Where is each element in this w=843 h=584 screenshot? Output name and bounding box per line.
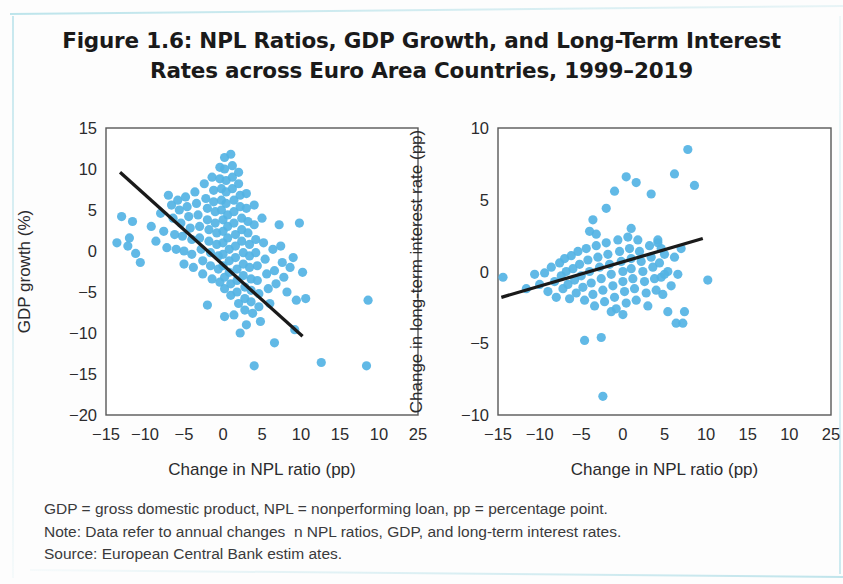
scatter-point	[593, 253, 602, 262]
y-axis-tick-label: −5	[470, 334, 489, 352]
scatter-point	[282, 287, 291, 296]
scatter-point	[590, 301, 599, 310]
scatter-point	[184, 212, 193, 221]
scatter-point	[226, 150, 235, 159]
scatter-point	[220, 312, 229, 321]
scatter-point	[125, 233, 134, 242]
note-data: Note: Data refer to annual changes n NPL…	[44, 521, 824, 544]
scatter-point	[192, 199, 201, 208]
scatter-point	[278, 258, 287, 267]
x-axis-title: Change in NPL ratio (pp)	[168, 460, 355, 479]
scatter-point	[543, 287, 552, 296]
scatter-point	[250, 220, 259, 229]
scatter-point	[632, 178, 641, 187]
x-axis-tick-label: 5	[660, 425, 669, 443]
scatter-point	[256, 317, 265, 326]
y-axis-title: Change in long-term interest rate (pp)	[407, 130, 426, 413]
y-axis-tick-label: 15	[79, 119, 97, 137]
scatter-point	[162, 243, 171, 252]
scatter-point	[136, 258, 145, 267]
scatter-point	[643, 301, 652, 310]
scatter-point	[627, 264, 636, 273]
scatter-point	[279, 273, 288, 282]
scatter-point	[363, 296, 372, 305]
scatter-point	[578, 283, 587, 292]
scatter-point	[588, 215, 597, 224]
scatter-point	[642, 288, 651, 297]
scatter-point	[242, 320, 251, 329]
scatter-point	[123, 241, 132, 250]
scatter-point	[645, 241, 654, 250]
scatter-point	[602, 204, 611, 213]
scatter-point	[588, 290, 597, 299]
scatter-point	[170, 230, 179, 239]
scatter-point	[270, 266, 279, 275]
scatter-point	[600, 297, 609, 306]
scatter-point	[242, 189, 251, 198]
scatter-point	[658, 290, 667, 299]
scatter-plot-interest-rate: 1050−5−10−15−10−50510151025Change in NPL…	[400, 0, 843, 500]
scatter-point	[264, 284, 273, 293]
scatter-point	[597, 274, 606, 283]
scatter-point	[362, 361, 371, 370]
scatter-point	[172, 245, 181, 254]
scatter-point	[243, 228, 252, 237]
x-axis-tick-label: 10	[697, 425, 715, 443]
x-axis-title: Change in NPL ratio (pp)	[571, 460, 758, 479]
scatter-point	[623, 232, 632, 241]
scatter-point	[598, 392, 607, 401]
scatter-point	[246, 297, 255, 306]
scatter-point	[245, 263, 254, 272]
scatter-point	[627, 224, 636, 233]
scatter-point	[610, 293, 619, 302]
scatter-point	[580, 336, 589, 345]
note-source: Source: European Central Bank estim ates…	[44, 543, 824, 566]
scatter-point	[655, 258, 664, 267]
scatter-point	[187, 250, 196, 259]
y-axis-title: GDP growth (%)	[15, 210, 34, 333]
scatter-point	[647, 189, 656, 198]
scatter-point	[285, 263, 294, 272]
scatter-point	[597, 333, 606, 342]
scatter-point	[607, 270, 616, 279]
scatter-point	[207, 173, 216, 182]
scatter-point	[298, 268, 307, 277]
scatter-point	[259, 238, 268, 247]
scatter-point	[602, 238, 611, 247]
scatter-point	[209, 197, 218, 206]
scatter-point	[670, 253, 679, 262]
plot-frame	[106, 128, 418, 415]
y-axis-tick-label: 10	[471, 119, 489, 137]
y-axis-tick-label: 0	[88, 242, 97, 260]
scatter-point	[234, 179, 243, 188]
scatter-point	[670, 169, 679, 178]
scatter-point	[622, 172, 631, 181]
scatter-point	[673, 270, 682, 279]
scatter-point	[254, 302, 263, 311]
scatter-point	[251, 248, 260, 257]
scatter-point	[275, 220, 284, 229]
scatter-point	[613, 235, 622, 244]
y-axis-tick-label: 5	[88, 201, 97, 219]
scatter-point	[253, 276, 262, 285]
scatter-point	[630, 284, 639, 293]
scatter-point	[610, 187, 619, 196]
scatter-point	[198, 269, 207, 278]
scatter-point	[295, 219, 304, 228]
scan-edge-bottom	[30, 569, 843, 578]
scatter-point	[164, 191, 173, 200]
scatter-point	[317, 358, 326, 367]
x-axis-tick-label: −15	[484, 425, 512, 443]
scatter-point	[498, 273, 507, 282]
scatter-point	[250, 361, 259, 370]
scatter-point	[190, 187, 199, 196]
x-axis-tick-label: 5	[257, 425, 266, 443]
scatter-point	[690, 181, 699, 190]
scatter-point	[147, 222, 156, 231]
scatter-point	[151, 237, 160, 246]
x-axis-tick-label: 25	[822, 425, 840, 443]
scatter-point	[632, 296, 641, 305]
scatter-point	[183, 202, 192, 211]
y-axis-tick-label: −10	[461, 406, 489, 424]
scatter-point	[582, 244, 591, 253]
